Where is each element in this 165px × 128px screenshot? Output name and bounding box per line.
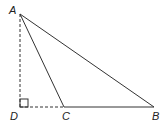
right-angle-marker bbox=[20, 99, 28, 107]
label-b: B bbox=[152, 110, 159, 122]
label-d: D bbox=[10, 110, 18, 122]
segment-ab bbox=[20, 14, 154, 107]
label-a: A bbox=[8, 4, 16, 16]
label-c: C bbox=[62, 110, 70, 122]
triangle-diagram: A D C B bbox=[0, 0, 165, 128]
segment-ac bbox=[20, 14, 64, 107]
